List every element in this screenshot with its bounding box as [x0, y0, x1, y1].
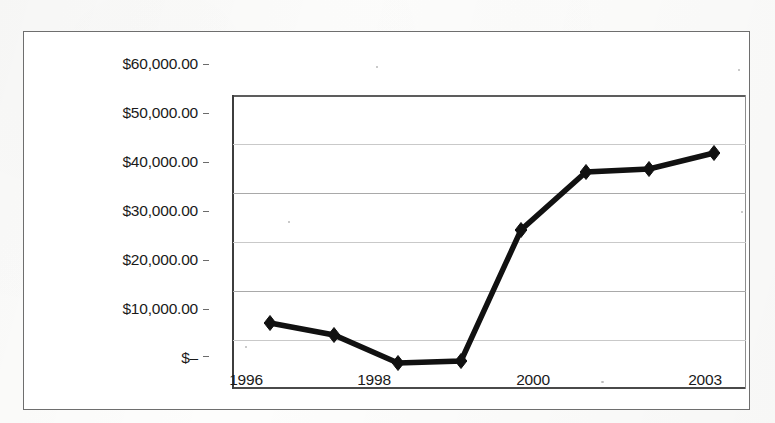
- scan-speck: [376, 66, 378, 68]
- scan-speck: [741, 211, 743, 213]
- scan-speck: [738, 69, 740, 71]
- category-axis-label: 1996: [229, 371, 263, 389]
- scan-speck: [245, 346, 247, 348]
- category-axis-labels: 1996199820002003: [0, 0, 775, 423]
- category-axis-label: 2003: [688, 371, 722, 389]
- scan-speck: [288, 221, 290, 223]
- category-axis-label: 2000: [516, 371, 550, 389]
- category-axis-label: 1998: [357, 371, 391, 389]
- scan-speck: [601, 381, 604, 383]
- chart-page: $60,000.00$50,000.00$40,000.00$30,000.00…: [0, 0, 775, 423]
